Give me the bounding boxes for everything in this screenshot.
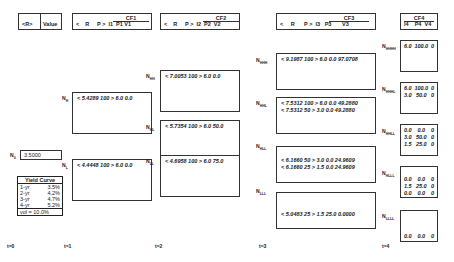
node-nhhh: < 9.1987 100 > 6.0 0.0 97.0708 — [276, 53, 376, 90]
node-nhll: < 6.1660 50 > 3.0 0.0 24.9609 < 6.1660 2… — [276, 146, 376, 183]
cell-row: 6.0100.00 — [404, 43, 434, 49]
node-label-nhlll: NHLLL — [382, 170, 395, 178]
node-label-nlll: NLLL — [256, 188, 266, 196]
node-label-nhhhl: NHHHL — [382, 86, 395, 94]
header-r-value: <R> Value — [18, 13, 62, 30]
node-nllll: 0.00.00 — [400, 210, 438, 242]
cell-row: 0.00.00 — [404, 233, 434, 239]
cf1-columns: < R P > I1 P1 V1 — [76, 21, 148, 27]
time-label-t0: t=0 — [7, 243, 14, 249]
node-nhhhl: 6.0100.00 3.050.00 — [400, 82, 438, 114]
cell-row: 1.525.00 — [404, 141, 434, 147]
node-line: < 7.5312 50 > 3.0 0.0 49.2880 — [281, 107, 355, 113]
time-label-t3: t=3 — [259, 243, 266, 249]
cell-row: 0.00.00 — [404, 176, 434, 182]
node-label-nhhll: NHHLL — [382, 128, 395, 136]
yield-curve-title: Yield Curve — [18, 177, 62, 184]
header-cf4: CF4 I4 P4 V4 — [400, 13, 438, 30]
node-label-nl: NL — [62, 162, 68, 170]
node-nlll: < 5.0483 25 > 1.5 25.0 0.0000 — [276, 192, 376, 229]
node-nhlll: 0.00.00 1.525.00 0.00.00 — [400, 166, 438, 198]
node-nhhhh: 6.0100.00 — [400, 40, 438, 72]
time-label-t2: t=2 — [155, 243, 162, 249]
cell-row: 6.0100.00 — [404, 85, 434, 91]
node-line: < 5.4289 100 > 6.0 0.0 — [77, 95, 132, 101]
node-line: < 9.1987 100 > 6.0 0.0 97.0708 — [281, 56, 358, 62]
node-label-nhhh: NHHH — [256, 57, 267, 65]
cf3-columns: < R P > I3 P3 V3 — [280, 21, 372, 27]
node-line: < 7.5312 100 > 6.0 0.0 49.2880 — [281, 100, 358, 106]
node-label-nllll: NLLLL — [382, 213, 394, 221]
volatility-row: vol = 10.0% — [18, 208, 62, 215]
node-line: < 7.0053 100 > 6.0 0.0 — [165, 73, 220, 79]
header-cf3: CF3 < R P > I3 P3 V3 — [276, 13, 376, 30]
header-cf1: CF1 < R P > I1 P1 V1 — [72, 13, 152, 30]
cell-row: 3.050.00 — [404, 134, 434, 140]
node-line: < 4.6958 100 > 6.0 75.0 — [165, 158, 223, 164]
root-value: 3.5000 — [24, 152, 41, 158]
node-nhhl: < 7.5312 100 > 6.0 0.0 49.2880 < 7.5312 … — [276, 97, 376, 134]
cell-row: 3.050.00 — [404, 92, 434, 98]
cf2-columns: < R P > I2 P2 V2 — [164, 21, 236, 27]
cell-row: 1.525.00 — [404, 183, 434, 189]
node-label-nhll: NHLL — [256, 143, 266, 151]
node-nl: < 4.4448 100 > 6.0 0.0 — [72, 159, 152, 201]
node-label-n0: N0 — [10, 152, 16, 160]
node-nh: < 5.4289 100 > 6.0 0.0 — [72, 92, 152, 134]
node-n0: 3.5000 — [20, 150, 62, 160]
node-label-nhhl: NHHL — [256, 100, 267, 108]
node-nll: < 4.6958 100 > 6.0 75.0 — [160, 155, 240, 197]
value-label: Value — [43, 21, 57, 27]
node-label-nh: NH — [62, 95, 68, 103]
node-nhh: < 7.0053 100 > 6.0 0.0 — [160, 70, 240, 112]
r-label: <R> — [22, 21, 32, 27]
node-label-nhl: NHL — [146, 124, 154, 132]
node-line: < 6.1660 50 > 3.0 0.0 24.9609 — [281, 157, 355, 163]
node-label-nll: NLL — [146, 158, 154, 166]
node-line: < 4.4448 100 > 6.0 0.0 — [77, 162, 132, 168]
header-cf2: CF2 < R P > I2 P2 V2 — [160, 13, 240, 30]
yield-curve-table: Yield Curve 1-yr3.5% 2-yr4.2% 3-yr4.7% 4… — [17, 176, 63, 216]
node-label-nhh: NHH — [146, 73, 155, 81]
node-line: < 6.1660 25 > 1.5 0.0 24.9609 — [281, 164, 355, 170]
time-label-t4: t=4 — [382, 243, 389, 249]
node-line: < 5.0483 25 > 1.5 25.0 0.0000 — [281, 211, 355, 217]
cell-row: 0.00.00 — [404, 190, 434, 196]
node-nhhll: 0.00.00 3.050.00 1.525.00 — [400, 124, 438, 156]
cf4-columns: I4 P4 V4 — [404, 21, 434, 27]
node-line: < 5.7354 100 > 6.0 50.0 — [165, 123, 223, 129]
node-label-nhhhh: NHHHH — [382, 43, 396, 51]
cell-row: 0.00.00 — [404, 127, 434, 133]
time-label-t1: t=1 — [64, 243, 71, 249]
